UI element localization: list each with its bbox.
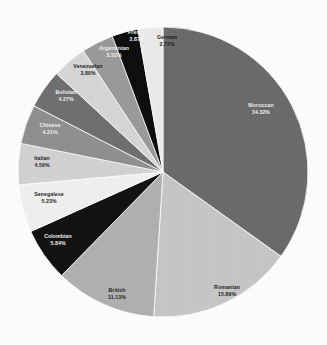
pie-slice-group [18, 27, 308, 317]
pie-chart-figure: Moroccan34.32%Romanian15.89%British11.13… [0, 0, 327, 345]
pie-chart-canvas [0, 0, 327, 345]
